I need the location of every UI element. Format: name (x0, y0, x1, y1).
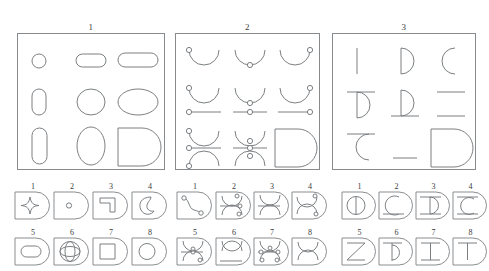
answer-option-card[interactable] (215, 237, 251, 266)
puzzle-1-matrix (17, 33, 165, 170)
answer-option-card[interactable] (92, 237, 128, 266)
answer-option-number: 8 (291, 228, 329, 237)
answer-option-card[interactable] (53, 191, 89, 220)
answer-option-3-4[interactable]: 4 (452, 182, 489, 222)
answer-option-number: 1 (14, 182, 52, 191)
answer-option-number: 6 (215, 228, 253, 237)
answer-option-number: 3 (92, 182, 130, 191)
puzzle-3-cell-r1c3 (431, 42, 471, 82)
answer-option-number: 7 (92, 228, 130, 237)
answer-option-number: 4 (291, 182, 329, 191)
answer-option-3-6[interactable]: 6 (378, 228, 415, 268)
answer-option-2-8[interactable]: 8 (291, 228, 329, 268)
answer-option-card[interactable] (452, 237, 487, 266)
answer-option-2-6[interactable]: 6 (215, 228, 253, 268)
answer-option-number: 8 (131, 228, 169, 237)
puzzle-1-cell-r1c3 (116, 42, 160, 80)
answer-option-2-7[interactable]: 7 (253, 228, 291, 268)
answer-option-3-5[interactable]: 5 (341, 228, 378, 268)
puzzle-3-cell-r3c1 (343, 128, 383, 170)
answer-option-card[interactable] (176, 237, 212, 266)
answer-option-2-1[interactable]: 1 (176, 182, 214, 222)
answer-option-number: 5 (14, 228, 52, 237)
answer-option-2-5[interactable]: 5 (176, 228, 214, 268)
answer-option-card[interactable] (341, 237, 376, 266)
answer-option-card[interactable] (215, 191, 251, 220)
answer-option-number: 5 (176, 228, 214, 237)
puzzle-2: 2 (175, 22, 320, 170)
answer-option-1-6[interactable]: 6 (53, 228, 91, 268)
answer-group-2: 1 2 3 (176, 182, 328, 270)
answer-option-number: 1 (341, 182, 378, 191)
puzzle-3-cell-r2c1 (343, 84, 383, 126)
answer-option-number: 2 (215, 182, 253, 191)
puzzle-2-cell-r2c3 (273, 82, 317, 124)
answer-option-card[interactable] (176, 191, 212, 220)
puzzle-3-cell-r1c2 (387, 42, 427, 82)
answer-option-1-7[interactable]: 7 (92, 228, 130, 268)
puzzle-2-cell-r3c3-missing (273, 126, 319, 170)
answer-option-number: 4 (131, 182, 169, 191)
answer-option-card[interactable] (131, 237, 167, 266)
puzzle-1-cell-r1c1 (26, 42, 66, 80)
answer-option-card[interactable] (415, 191, 450, 220)
answer-option-number: 6 (53, 228, 91, 237)
puzzle-1-cell-r2c3 (116, 82, 160, 122)
answer-option-card[interactable] (253, 237, 289, 266)
answer-option-card[interactable] (92, 191, 128, 220)
answer-option-card[interactable] (291, 191, 327, 220)
answer-option-card[interactable] (341, 191, 376, 220)
answer-option-2-4[interactable]: 4 (291, 182, 329, 222)
answer-option-card[interactable] (131, 191, 167, 220)
puzzle-2-matrix (175, 33, 320, 170)
puzzle-1-cell-r3c2 (70, 126, 114, 168)
puzzle-1-cell-r2c1 (26, 82, 66, 122)
puzzle-2-cell-r2c2 (228, 82, 272, 124)
puzzle-3-matrix (332, 33, 476, 170)
answer-option-card[interactable] (378, 237, 413, 266)
answer-option-number: 5 (341, 228, 378, 237)
puzzle-2-cell-r1c1 (182, 40, 226, 80)
answer-option-number: 3 (415, 182, 452, 191)
answer-option-3-3[interactable]: 3 (415, 182, 452, 222)
puzzle-3-cell-r2c3 (431, 84, 471, 126)
puzzle-2-label: 2 (175, 22, 320, 32)
answer-option-1-8[interactable]: 8 (131, 228, 169, 268)
puzzle-1: 1 (17, 22, 165, 170)
answer-option-3-8[interactable]: 8 (452, 228, 489, 268)
answer-option-1-4[interactable]: 4 (131, 182, 169, 222)
puzzle-1-cell-r3c1 (26, 126, 66, 168)
answer-option-3-7[interactable]: 7 (415, 228, 452, 268)
answer-option-card[interactable] (14, 237, 50, 266)
answer-option-number: 7 (253, 228, 291, 237)
answer-option-card[interactable] (14, 191, 50, 220)
answer-option-1-3[interactable]: 3 (92, 182, 130, 222)
puzzle-3-cell-r3c2 (387, 128, 427, 170)
answer-option-number: 1 (176, 182, 214, 191)
answer-group-1: 1 2 3 (14, 182, 168, 270)
answer-option-card[interactable] (253, 191, 289, 220)
answer-option-3-1[interactable]: 1 (341, 182, 378, 222)
answer-option-number: 7 (415, 228, 452, 237)
answer-option-number: 8 (452, 228, 489, 237)
answer-option-card[interactable] (452, 191, 487, 220)
answer-option-card[interactable] (53, 237, 89, 266)
answer-option-1-2[interactable]: 2 (53, 182, 91, 222)
answer-option-card[interactable] (378, 191, 413, 220)
answer-option-2-3[interactable]: 3 (253, 182, 291, 222)
puzzle-2-cell-r3c2 (228, 126, 272, 170)
answer-group-3: 1 2 3 (341, 182, 487, 270)
puzzle-1-label: 1 (17, 22, 165, 32)
answer-option-3-2[interactable]: 2 (378, 182, 415, 222)
puzzle-2-cell-r2c1 (182, 82, 226, 124)
answer-option-number: 2 (378, 182, 415, 191)
puzzle-1-cell-r3c3-missing (116, 126, 162, 168)
puzzle-3-cell-r1c1 (343, 42, 383, 82)
puzzle-2-cell-r1c2 (228, 40, 272, 80)
answer-option-card[interactable] (291, 237, 327, 266)
answer-option-2-2[interactable]: 2 (215, 182, 253, 222)
puzzle-3: 3 (332, 22, 476, 170)
answer-option-1-1[interactable]: 1 (14, 182, 52, 222)
answer-option-card[interactable] (415, 237, 450, 266)
answer-option-1-5[interactable]: 5 (14, 228, 52, 268)
